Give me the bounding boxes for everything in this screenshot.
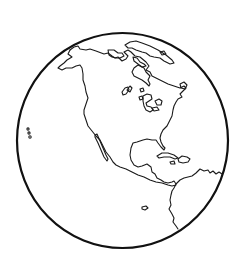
great-lakes-erie — [143, 94, 153, 112]
great-lakes-ontario — [155, 99, 162, 105]
galapagos-island — [142, 206, 148, 210]
hispaniola — [178, 156, 190, 163]
hawaii-island-2 — [28, 132, 30, 134]
globe-drawing: Globe line drawing showing the Western H… — [0, 0, 242, 267]
north-america-coastline — [70, 46, 186, 229]
venezuela-coast — [176, 169, 222, 184]
cuba — [157, 153, 178, 159]
greenland — [125, 41, 174, 64]
arctic-island-1 — [108, 50, 124, 58]
lake-small — [152, 107, 159, 111]
globe-outline — [17, 33, 228, 248]
hawaii-island-3 — [29, 136, 31, 138]
jamaica — [170, 161, 175, 164]
great-lakes-huron — [140, 88, 144, 92]
newfoundland — [180, 82, 187, 89]
lake-winnipeg — [139, 96, 143, 100]
hawaii-island-1 — [27, 128, 29, 130]
globe-svg — [0, 0, 242, 267]
baja-california — [95, 134, 108, 161]
west-coastline — [58, 50, 176, 186]
